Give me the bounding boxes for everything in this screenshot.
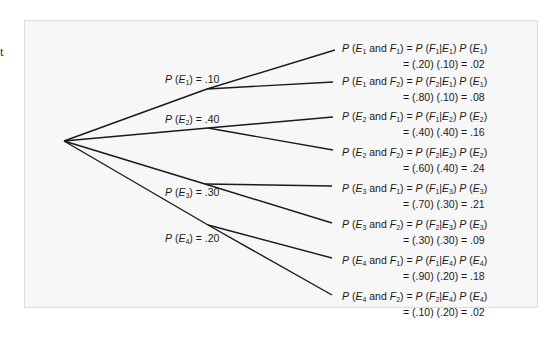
leaf-calc: = (.70) (.30) = .21 bbox=[342, 198, 487, 210]
leaf-e2-f2: P (E2 and F2) = P (F2|E2) P (E2) = (.60)… bbox=[342, 146, 487, 174]
leaf-calc: = (.20) (.10) = .02 bbox=[342, 58, 487, 70]
label-p-e1: P (E1) = .10 bbox=[165, 73, 219, 86]
label-p-e3: P (E3) = .30 bbox=[165, 186, 219, 199]
leaf-e3-f2: P (E3 and F2) = P (F2|E3) P (E3) = (.30)… bbox=[342, 218, 487, 246]
leaf-calc: = (.80) (.10) = .08 bbox=[342, 91, 487, 103]
leaf-calc: = (.10) (.20) = .02 bbox=[342, 306, 487, 318]
leaf-e2-f1: P (E2 and F1) = P (F1|E2) P (E2) = (.40)… bbox=[342, 110, 487, 138]
leaf-e1-f2: P (E1 and F2) = P (F2|E1) P (E1) = (.80)… bbox=[342, 75, 487, 103]
leaf-e4-f1: P (E4 and F1) = P (F1|E4) P (E4) = (.90)… bbox=[342, 254, 487, 282]
branch-e2 bbox=[64, 128, 208, 141]
leaf-e4-f2: P (E4 and F2) = P (F2|E4) P (E4) = (.10)… bbox=[342, 290, 487, 318]
label-p-e2: P (E2) = .40 bbox=[165, 113, 219, 126]
leaf-e3-f1: P (E3 and F1) = P (F1|E3) P (E3) = (.70)… bbox=[342, 182, 487, 210]
leaf-e1-f1: P (E1 and F1) = P (F1|E1) P (E1) = (.20)… bbox=[342, 42, 487, 70]
leaf-calc: = (.40) (.40) = .16 bbox=[342, 126, 487, 138]
leaf-calc: = (.90) (.20) = .18 bbox=[342, 270, 487, 282]
leaf-calc: = (.60) (.40) = .24 bbox=[342, 162, 487, 174]
leaf-calc: = (.30) (.30) = .09 bbox=[342, 234, 487, 246]
label-p-e4: P (E4) = .20 bbox=[165, 232, 219, 245]
branch-e3 bbox=[64, 141, 205, 184]
branch-e4 bbox=[64, 141, 208, 225]
